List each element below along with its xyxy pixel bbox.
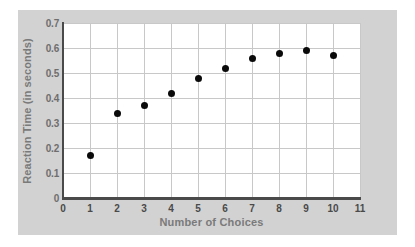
x-axis-title: Number of Choices [63,216,360,228]
gridline-vertical [144,23,145,198]
gridline-vertical [252,23,253,198]
gridline-vertical [333,23,334,198]
data-point [114,110,121,117]
x-tick-label: 0 [60,203,66,214]
y-tick-label: 0.5 [46,68,59,79]
gridline-vertical [360,23,361,198]
x-tick-label: 6 [222,203,228,214]
gridline-horizontal [63,73,360,74]
gridline-vertical [171,23,172,198]
x-tick-label: 10 [327,203,338,214]
x-tick-label: 4 [168,203,174,214]
y-tick-label: 0 [54,193,59,204]
gridline-vertical [198,23,199,198]
data-point [222,65,229,72]
x-tick-label: 8 [276,203,282,214]
data-point [87,152,94,159]
x-tick-label: 3 [141,203,147,214]
data-point [303,47,310,54]
data-point [195,75,202,82]
x-tick-label: 9 [303,203,309,214]
chart-figure: 00.10.20.30.40.50.60.7 01234567891011 Nu… [0,0,415,247]
x-tick-label: 7 [249,203,255,214]
gridline-horizontal [63,98,360,99]
y-tick-label: 0.7 [46,18,59,29]
x-tick-label: 1 [87,203,93,214]
x-tick-label: 11 [355,203,366,214]
y-axis-line [62,22,64,199]
data-point [168,90,175,97]
y-tick-label: 0.2 [46,143,59,154]
y-tick-label: 0.3 [46,118,59,129]
data-point [249,55,256,62]
x-axis-tick-labels: 01234567891011 [63,203,360,217]
x-tick-label: 5 [195,203,201,214]
gridline-horizontal [63,148,360,149]
plot-area [63,23,360,198]
x-tick-label: 2 [114,203,120,214]
gridline-horizontal [63,23,360,24]
gridline-horizontal [63,123,360,124]
y-tick-label: 0.1 [46,168,59,179]
gridline-vertical [225,23,226,198]
gridline-horizontal [63,48,360,49]
y-tick-label: 0.4 [46,93,59,104]
y-tick-label: 0.6 [46,43,59,54]
y-axis-title: Reaction Time (in seconds) [21,26,33,196]
gridline-vertical [90,23,91,198]
data-point [141,102,148,109]
data-point [276,50,283,57]
data-point [330,52,337,59]
x-axis-line [62,197,361,200]
gridline-horizontal [63,173,360,174]
